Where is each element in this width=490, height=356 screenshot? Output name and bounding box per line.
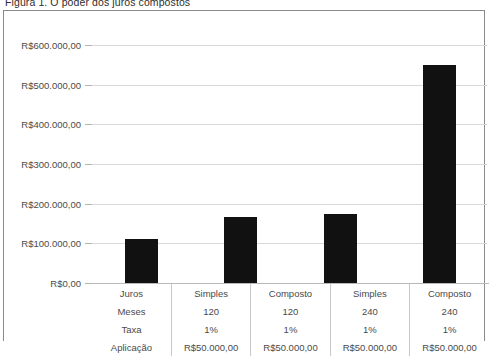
chart-frame: R$600.000,00R$500.000,00R$400.000,00R$30… [3,10,485,341]
bar [324,214,357,283]
table-cell: 1% [171,320,250,338]
y-axis-tick [85,204,92,205]
bar [125,239,158,283]
table-cell: 1% [330,320,409,338]
data-table: JurosSimplesCompostoSimplesCompostoMeses… [92,283,489,352]
y-axis-label: R$300.000,00 [4,159,81,170]
table-row-label: Juros [92,284,171,302]
table-cell: 1% [410,320,489,338]
table-row: Taxa1%1%1%1% [92,320,489,338]
plot-area [92,45,487,283]
bar [423,65,456,283]
table-cell: 240 [330,302,409,320]
table-cell: R$50.000,00 [251,338,330,356]
y-axis-label: R$400.000,00 [4,119,81,130]
table-cell: R$50.000,00 [330,338,409,356]
y-axis-label: R$100.000,00 [4,238,81,249]
table-cell: Composto [251,284,330,302]
table-row-label: Aplicação [92,338,171,356]
y-axis-label: R$200.000,00 [4,198,81,209]
y-axis-tick [85,164,92,165]
bar [224,217,257,283]
table-row: JurosSimplesCompostoSimplesComposto [92,284,489,302]
gridline [92,45,487,46]
y-axis-tick [85,85,92,86]
table-cell: Simples [330,284,409,302]
table-cell: 1% [251,320,330,338]
table-cell: R$50.000,00 [410,338,489,356]
y-axis-label: R$0,00 [4,278,81,289]
table-cell: R$50.000,00 [171,338,250,356]
table-cell: Composto [410,284,489,302]
table-cell: Simples [171,284,250,302]
table-cell: 240 [410,302,489,320]
data-table-grid: JurosSimplesCompostoSimplesCompostoMeses… [92,284,489,356]
table-row: AplicaçãoR$50.000,00R$50.000,00R$50.000,… [92,338,489,356]
table-cell: 120 [251,302,330,320]
y-axis-tick [85,124,92,125]
table-row: Meses120120240240 [92,302,489,320]
figure-caption: Figura 1. O poder dos juros compostos [5,0,190,8]
y-axis-tick [85,283,92,284]
y-axis-label: R$600.000,00 [4,40,81,51]
table-row-label: Meses [92,302,171,320]
y-axis-tick [85,45,92,46]
table-row-label: Taxa [92,320,171,338]
y-axis-label: R$500.000,00 [4,79,81,90]
y-axis-tick [85,243,92,244]
table-cell: 120 [171,302,250,320]
